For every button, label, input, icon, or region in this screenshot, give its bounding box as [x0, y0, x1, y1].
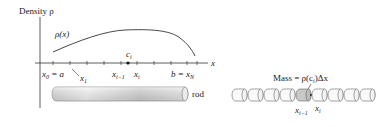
density-rod-diagram: Density ρ x ρ(x) ci x0 = a — [0, 0, 382, 127]
segment — [328, 89, 343, 101]
xi-minus-1-label: xi−1 — [111, 69, 125, 80]
rod-label: rod — [192, 89, 204, 99]
segment — [232, 89, 247, 101]
segment-right-label: xi — [314, 103, 321, 114]
ci-dot — [310, 94, 312, 96]
x1-leader — [72, 69, 79, 76]
ci-point — [126, 61, 129, 64]
segment — [344, 89, 359, 101]
left-diagram: Density ρ x ρ(x) ci x0 = a — [19, 6, 215, 108]
b-xN-label: b = xN — [171, 69, 195, 80]
mass-label: Mass = ρ(ci)Δx — [273, 73, 329, 84]
segmented-rod — [232, 89, 375, 101]
curve-label: ρ(x) — [54, 29, 69, 39]
ci-label: ci — [126, 49, 132, 60]
x-axis-label: x — [210, 58, 215, 68]
xi-label: xi — [133, 69, 140, 80]
x1-label: x1 — [79, 73, 87, 84]
y-axis-label: Density ρ — [19, 6, 54, 16]
segment — [248, 89, 263, 101]
segment — [312, 89, 327, 101]
segment-highlighted — [296, 89, 311, 101]
rod — [52, 87, 188, 101]
x0-label: x0 = a — [41, 69, 65, 80]
segment — [280, 89, 295, 101]
segment — [264, 89, 279, 101]
right-diagram: Mass = ρ(ci)Δx xi−1 xi — [232, 73, 375, 116]
density-curve — [53, 30, 195, 56]
segment — [360, 89, 375, 101]
segment-left-label: xi−1 — [294, 105, 308, 116]
